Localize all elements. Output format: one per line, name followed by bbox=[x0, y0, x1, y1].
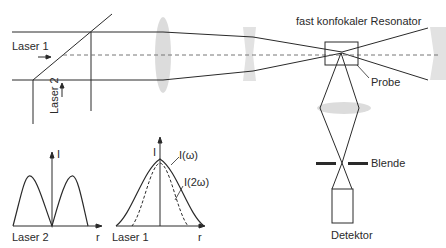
plot-laser1-curve2: I(2ω) bbox=[184, 177, 209, 188]
plot-laser1-y-axis: I bbox=[153, 147, 156, 158]
aperture-right bbox=[348, 162, 368, 165]
plot-laser2-x-axis: r bbox=[96, 232, 100, 243]
plot-laser1-x-axis: r bbox=[198, 232, 202, 243]
aperture-left bbox=[316, 162, 336, 165]
resonator-mirror-right bbox=[430, 27, 446, 80]
resonator-mirror-left bbox=[243, 27, 256, 81]
label-laser2: Laser 2 bbox=[49, 77, 60, 114]
diagram-stage: Laser 1 Laser 2 fast konfokaler Resonato… bbox=[0, 0, 446, 248]
label-blende: Blende bbox=[371, 158, 405, 169]
plot-laser2 bbox=[13, 152, 102, 228]
plot-laser1-label: Laser 1 bbox=[112, 232, 149, 243]
optical-setup-diagram bbox=[0, 0, 446, 248]
detector-box bbox=[332, 189, 353, 223]
plot-laser1-curve1: I(ω) bbox=[179, 150, 198, 161]
lens-2 bbox=[317, 102, 371, 114]
label-resonator: fast konfokaler Resonator bbox=[296, 16, 421, 27]
label-detektor: Detektor bbox=[331, 230, 373, 241]
plot-laser2-y-axis: I bbox=[57, 149, 60, 160]
label-probe: Probe bbox=[371, 77, 400, 88]
label-laser1: Laser 1 bbox=[12, 41, 49, 52]
plot-laser2-label: Laser 2 bbox=[12, 232, 49, 243]
